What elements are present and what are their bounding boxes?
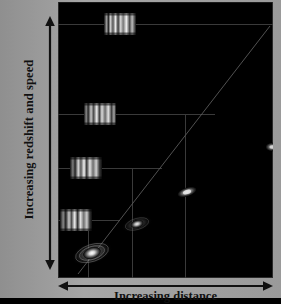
x-axis-label: Increasing distance (58, 289, 273, 304)
spiral-galaxy-icon (118, 210, 156, 238)
y-axis-label: Increasing redshift and speed (22, 15, 37, 265)
galaxy-spiral-near (118, 210, 156, 238)
elliptical-galaxy-icon (173, 182, 201, 202)
spectrum-bands-2 (84, 103, 116, 125)
galaxy-elliptical-far (173, 182, 201, 202)
spectrum-bands-3 (70, 157, 102, 179)
spiral-galaxy-icon (68, 235, 116, 271)
y-axis-arrow (44, 16, 56, 270)
spectrum-strip-2 (84, 103, 116, 125)
spectrum-strip-4 (60, 209, 92, 231)
galaxy-spiral-nearest (68, 235, 116, 271)
spectrum-strip-3 (70, 157, 102, 179)
plot-area (58, 2, 273, 278)
spectrum-bands-4 (60, 209, 92, 231)
x-axis-region: Increasing distance (58, 279, 281, 298)
spectrum-bands-1 (104, 13, 136, 35)
galaxy-elliptical-farthest (263, 140, 273, 154)
y-axis-region: Increasing redshift and speed (0, 2, 56, 278)
elliptical-galaxy-icon (263, 140, 273, 154)
spectrum-strip-1 (104, 13, 136, 35)
